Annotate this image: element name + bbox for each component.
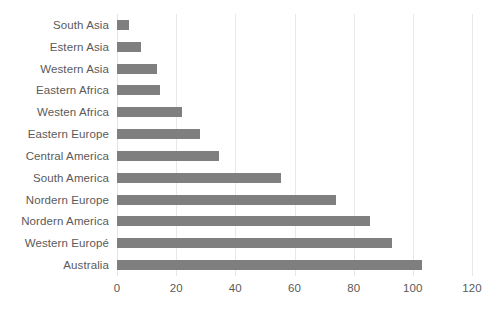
bar[interactable] [117,85,160,95]
gridline-120 [472,14,473,276]
x-tick-label-20: 20 [170,282,183,294]
bar[interactable] [117,129,200,139]
bar-row[interactable] [117,211,472,233]
bar[interactable] [117,107,182,117]
bar[interactable] [117,20,129,30]
bar-row[interactable] [117,123,472,145]
bar-series [117,14,472,276]
bar-row[interactable] [117,36,472,58]
bar[interactable] [117,260,422,270]
bar-row[interactable] [117,232,472,254]
bar-row[interactable] [117,58,472,80]
category-label: Central America [0,145,109,167]
bar-row[interactable] [117,101,472,123]
bar-chart: South AsiaEstern AsiaWestern AsiaEastern… [0,0,499,317]
x-tick-label-120: 120 [462,282,482,294]
category-label: Estern Asia [0,36,109,58]
bar-row[interactable] [117,167,472,189]
category-label: South Asia [0,14,109,36]
bar[interactable] [117,173,281,183]
x-tick-label-80: 80 [347,282,360,294]
category-label: Eastern Europe [0,123,109,145]
category-label: Western Asia [0,58,109,80]
bar[interactable] [117,42,141,52]
bar[interactable] [117,64,157,74]
x-tick-label-100: 100 [403,282,423,294]
bar-row[interactable] [117,80,472,102]
category-label: Westen Africa [0,101,109,123]
category-axis-labels: South AsiaEstern AsiaWestern AsiaEastern… [0,14,109,276]
bar[interactable] [117,238,392,248]
bar-row[interactable] [117,145,472,167]
value-axis-tick-labels: 020406080100120 [117,282,472,302]
bar[interactable] [117,216,370,226]
category-label: Nordern America [0,211,109,233]
bar-row[interactable] [117,189,472,211]
bar[interactable] [117,195,336,205]
bar-row[interactable] [117,254,472,276]
x-tick-label-0: 0 [114,282,121,294]
category-label: Australia [0,254,109,276]
category-label: Western Europé [0,232,109,254]
plot-area [117,14,472,276]
x-tick-label-40: 40 [229,282,242,294]
bar-row[interactable] [117,14,472,36]
category-label: Nordern Europe [0,189,109,211]
x-tick-label-60: 60 [288,282,301,294]
category-label: South America [0,167,109,189]
category-label: Eastern Africa [0,80,109,102]
bar[interactable] [117,151,219,161]
